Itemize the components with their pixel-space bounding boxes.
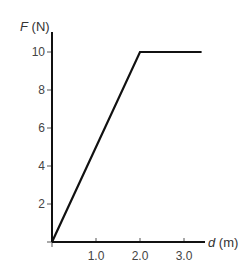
y-tick-label: 8: [38, 83, 45, 97]
x-axis-label: d (m): [208, 235, 238, 250]
y-tick-label: 6: [38, 121, 45, 135]
y-axis-label: F (N): [20, 19, 50, 34]
x-tick-label: 3.0: [176, 249, 193, 263]
x-tick-label: 1.0: [88, 249, 105, 263]
y-tick-label: 2: [38, 197, 45, 211]
data-line: [52, 52, 202, 242]
y-tick-label: 10: [32, 45, 46, 59]
y-tick-label: 4: [38, 159, 45, 173]
force-distance-chart: 246810 1.02.03.0 F (N) d (m): [0, 0, 250, 278]
y-axis-ticks: 246810: [32, 45, 52, 242]
x-tick-label: 2.0: [132, 249, 149, 263]
